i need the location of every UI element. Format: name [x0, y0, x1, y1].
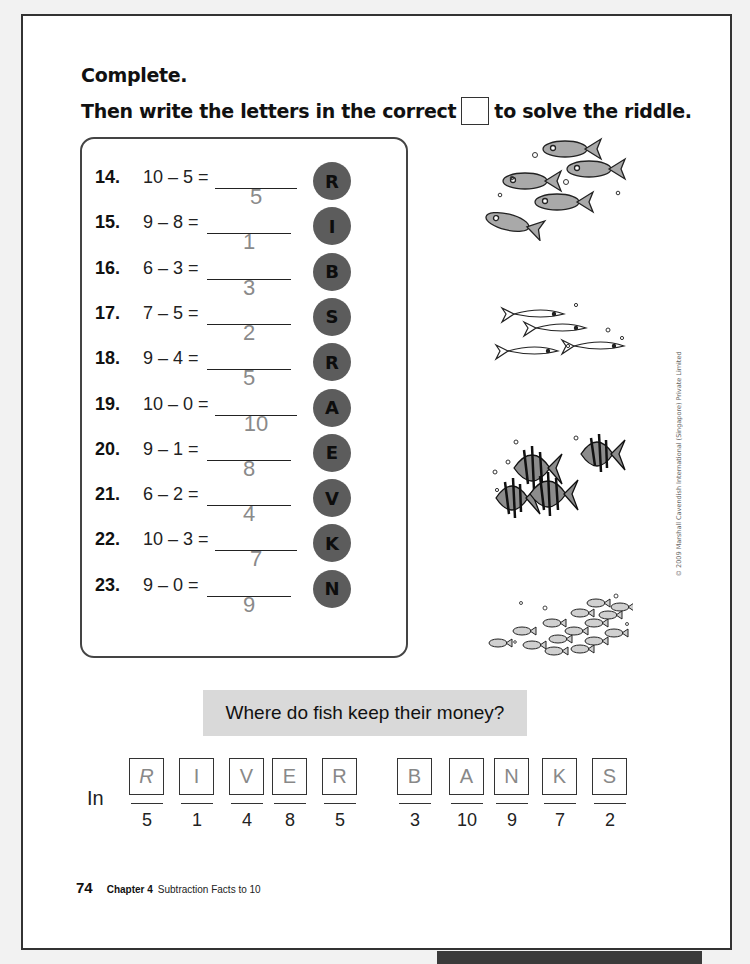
- slot-number: 2: [590, 810, 630, 831]
- slot-underline: [451, 803, 483, 804]
- riddle-slot: K7: [540, 758, 580, 831]
- problem-row: 21.6 – 2 =4V: [82, 472, 410, 512]
- letter-box[interactable]: B: [397, 758, 432, 795]
- problem-row: 17.7 – 5 =2S: [82, 291, 410, 331]
- chapter-label: Chapter 4: [107, 884, 153, 895]
- problem-expression: 7 – 5 =: [143, 303, 199, 324]
- small-fish-school-icon: [487, 590, 633, 658]
- riddle-question: Where do fish keep their money?: [203, 690, 527, 736]
- problem-number: 22.: [95, 529, 120, 550]
- slot-underline: [324, 803, 356, 804]
- letter-circle: V: [313, 479, 351, 517]
- problem-expression: 10 – 5 =: [143, 167, 209, 188]
- answer-blank[interactable]: 2: [207, 324, 291, 325]
- slot-number: 8: [270, 810, 310, 831]
- instruction-riddle-before: Then write the letters in the correct: [81, 100, 456, 122]
- letter-box[interactable]: N: [494, 758, 529, 795]
- problem-number: 17.: [95, 303, 120, 324]
- letter-circle: S: [313, 298, 351, 336]
- slot-number: 7: [540, 810, 580, 831]
- letter-box[interactable]: S: [592, 758, 627, 795]
- riddle-prefix: In: [87, 787, 104, 810]
- slot-underline: [274, 803, 306, 804]
- riddle-slot: N9: [492, 758, 532, 831]
- answer-blank[interactable]: 9: [207, 596, 291, 597]
- problem-number: 14.: [95, 167, 120, 188]
- page-footer: 74Chapter 4Subtraction Facts to 10: [76, 879, 261, 897]
- angelfish-group-icon: [486, 426, 636, 526]
- instruction-riddle-after: to solve the riddle.: [494, 100, 691, 122]
- problem-row: 14.10 – 5 =5R: [82, 155, 410, 195]
- problem-expression: 9 – 1 =: [143, 439, 199, 460]
- slot-underline: [594, 803, 626, 804]
- letter-circle: R: [313, 162, 351, 200]
- problem-number: 21.: [95, 484, 120, 505]
- letter-circle: B: [313, 253, 351, 291]
- problem-number: 23.: [95, 575, 120, 596]
- chapter-title: Subtraction Facts to 10: [158, 884, 261, 895]
- letter-box[interactable]: R: [129, 758, 164, 795]
- problem-row: 23.9 – 0 =9N: [82, 563, 410, 603]
- riddle-slot: B3: [395, 758, 435, 831]
- letter-circle: R: [313, 343, 351, 381]
- page-bottom-bar: [437, 951, 702, 964]
- riddle-slot: I1: [177, 758, 217, 831]
- problem-row: 22.10 – 3 =7K: [82, 517, 410, 557]
- fish-school-1-icon: [485, 133, 635, 241]
- riddle-slot: S2: [590, 758, 630, 831]
- letter-box[interactable]: K: [542, 758, 577, 795]
- letter-box[interactable]: A: [449, 758, 484, 795]
- riddle-slot: R5: [320, 758, 360, 831]
- letter-box[interactable]: V: [229, 758, 264, 795]
- letter-circle: N: [313, 570, 351, 608]
- problem-expression: 10 – 3 =: [143, 529, 209, 550]
- problem-expression: 10 – 0 =: [143, 394, 209, 415]
- problem-expression: 6 – 2 =: [143, 484, 199, 505]
- problem-expression: 9 – 8 =: [143, 212, 199, 233]
- instruction-complete: Complete.: [81, 64, 187, 86]
- slot-underline: [131, 803, 163, 804]
- answer-blank[interactable]: 10: [215, 415, 297, 416]
- slot-number: 5: [320, 810, 360, 831]
- slot-underline: [399, 803, 431, 804]
- riddle-slot: A10: [447, 758, 487, 831]
- answer-blank[interactable]: 1: [207, 233, 291, 234]
- problem-row: 15.9 – 8 =1I: [82, 200, 410, 240]
- letter-circle: K: [313, 524, 351, 562]
- answer-blank[interactable]: 5: [215, 188, 297, 189]
- slot-underline: [496, 803, 528, 804]
- answer-blank[interactable]: 5: [207, 369, 291, 370]
- slot-number: 4: [227, 810, 267, 831]
- answer-blank[interactable]: 7: [215, 550, 297, 551]
- letter-circle: E: [313, 434, 351, 472]
- problem-number: 20.: [95, 439, 120, 460]
- slot-underline: [181, 803, 213, 804]
- slot-number: 5: [127, 810, 167, 831]
- letter-box[interactable]: E: [272, 758, 307, 795]
- slot-underline: [544, 803, 576, 804]
- riddle-slot: V4: [227, 758, 267, 831]
- letter-circle: I: [313, 207, 351, 245]
- problem-row: 19.10 – 0 =10A: [82, 382, 410, 422]
- problem-number: 19.: [95, 394, 120, 415]
- problem-number: 16.: [95, 258, 120, 279]
- problem-row: 20.9 – 1 =8E: [82, 427, 410, 467]
- answer-blank[interactable]: 4: [207, 505, 291, 506]
- slot-underline: [231, 803, 263, 804]
- copyright-notice: © 2009 Marshall Cavendish International …: [675, 344, 683, 584]
- slot-number: 3: [395, 810, 435, 831]
- box-icon: [461, 97, 489, 125]
- problem-number: 15.: [95, 212, 120, 233]
- riddle-slot: R5: [127, 758, 167, 831]
- slot-number: 1: [177, 810, 217, 831]
- fish-school-2-icon: [494, 298, 634, 368]
- problem-row: 16.6 – 3 =3B: [82, 246, 410, 286]
- problem-expression: 6 – 3 =: [143, 258, 199, 279]
- answer-blank[interactable]: 8: [207, 460, 291, 461]
- problem-row: 18.9 – 4 =5R: [82, 336, 410, 376]
- problem-number: 18.: [95, 348, 120, 369]
- problem-expression: 9 – 4 =: [143, 348, 199, 369]
- letter-box[interactable]: I: [179, 758, 214, 795]
- answer-blank[interactable]: 3: [207, 279, 291, 280]
- letter-box[interactable]: R: [322, 758, 357, 795]
